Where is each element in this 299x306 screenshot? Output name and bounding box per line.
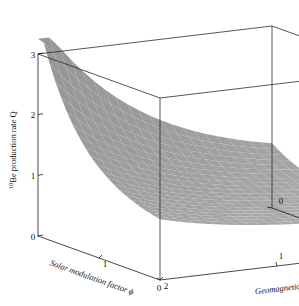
y-tick-1 <box>276 262 277 266</box>
z-tick-label-2: 2 <box>31 110 36 120</box>
z-tick-label-0: 0 <box>31 232 36 242</box>
surface-mesh <box>38 38 299 225</box>
y-tick-label-1: 1 <box>279 251 284 261</box>
y-tick-label-0: 0 <box>157 283 162 293</box>
x-tick-1 <box>99 255 102 258</box>
surface-plot-figure: 321012210010Be production rate QSolar mo… <box>0 0 299 306</box>
z-tick-2 <box>38 114 43 115</box>
z-tick-1 <box>38 174 43 175</box>
z-tick-label-3: 3 <box>31 50 36 60</box>
z-axis-title: 10Be production rate Q <box>8 111 18 189</box>
top-frame-back <box>38 26 272 54</box>
y-axis-title: Geomagnetic field M <box>254 278 299 297</box>
x-tick-label-2: 2 <box>164 281 169 291</box>
top-frame-front <box>160 70 299 98</box>
x-axis-title: Solar modulation factor ϕ <box>49 258 136 298</box>
z-tick-label-1: 1 <box>31 171 36 181</box>
x-tick-label-1: 1 <box>103 259 108 269</box>
z-tick-0 <box>38 235 43 236</box>
top-frame-right <box>272 26 299 70</box>
y-tick-label-end: 0 <box>279 196 284 206</box>
plot-canvas: 321012210010Be production rate QSolar mo… <box>0 0 299 306</box>
z-axis-title-text: Be production rate Q <box>8 111 18 183</box>
